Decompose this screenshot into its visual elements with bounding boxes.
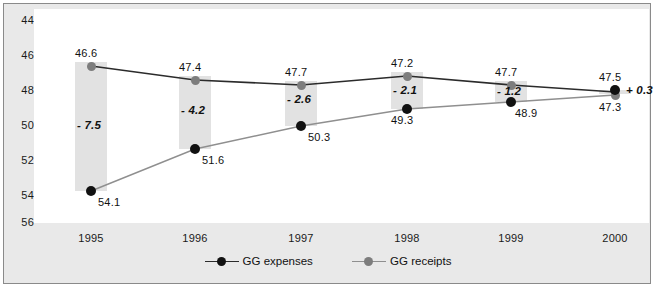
value-label-expenses: 54.1 <box>98 196 120 208</box>
data-point-expenses <box>506 97 516 107</box>
value-label-expenses: 49.3 <box>391 114 413 126</box>
value-label-expenses: 50.3 <box>308 131 330 143</box>
value-label-receipts: 47.7 <box>495 66 517 78</box>
data-point-expenses <box>296 121 306 131</box>
y-tick-label: 56 <box>8 217 34 228</box>
y-axis: 44 46 48 50 52 54 56 <box>4 4 34 228</box>
data-point-receipts <box>87 62 96 71</box>
y-tick-label: 50 <box>8 120 34 131</box>
plot-area: 46.6 47.4 47.7 47.2 47.7 47.5 54.1 51.6 … <box>34 9 649 223</box>
chart-figure: 44 46 48 50 52 54 56 4 <box>3 3 651 284</box>
value-label-receipts: 47.2 <box>391 57 413 69</box>
balance-label: - 2.6 <box>287 93 311 105</box>
y-tick-label: 52 <box>8 155 34 166</box>
value-label-expenses: 47.3 <box>599 101 621 113</box>
data-point-expenses <box>610 85 620 95</box>
data-point-expenses <box>190 144 200 154</box>
data-point-receipts <box>297 81 306 90</box>
x-tick-label: 1996 <box>160 232 230 244</box>
x-tick-label: 1999 <box>476 232 546 244</box>
series-lines <box>34 9 649 223</box>
value-label-receipts: 47.5 <box>599 71 621 83</box>
y-tick-label: 54 <box>8 190 34 201</box>
balance-label: + 0.3 <box>626 84 653 96</box>
legend-label: GG expenses <box>243 255 313 267</box>
data-point-receipts <box>191 76 200 85</box>
value-label-expenses: 48.9 <box>515 107 537 119</box>
legend-item-gg-expenses: GG expenses <box>205 254 313 267</box>
data-point-expenses <box>86 186 96 196</box>
value-label-receipts: 47.7 <box>285 66 307 78</box>
x-tick-label: 1998 <box>372 232 442 244</box>
y-tick-label: 44 <box>8 15 34 26</box>
value-label-receipts: 47.4 <box>179 61 201 73</box>
chart-legend: GG expenses GG receipts <box>4 254 652 267</box>
balance-label: - 7.5 <box>77 119 101 131</box>
data-point-expenses <box>402 104 412 114</box>
y-tick-label: 46 <box>8 50 34 61</box>
value-label-receipts: 46.6 <box>75 47 97 59</box>
value-label-expenses: 51.6 <box>202 154 224 166</box>
legend-item-gg-receipts: GG receipts <box>352 254 451 267</box>
balance-label: - 4.2 <box>181 104 205 116</box>
y-tick-label: 48 <box>8 85 34 96</box>
x-tick-label: 1997 <box>266 232 336 244</box>
balance-label: - 2.1 <box>393 84 417 96</box>
expenses-marker-icon <box>205 256 239 266</box>
data-point-receipts <box>403 72 412 81</box>
x-tick-label: 2000 <box>580 232 650 244</box>
x-tick-label: 1995 <box>56 232 126 244</box>
legend-label: GG receipts <box>390 255 451 267</box>
balance-label: - 1.2 <box>497 85 521 97</box>
receipts-marker-icon <box>352 256 386 266</box>
gg-receipts-line <box>91 66 615 92</box>
